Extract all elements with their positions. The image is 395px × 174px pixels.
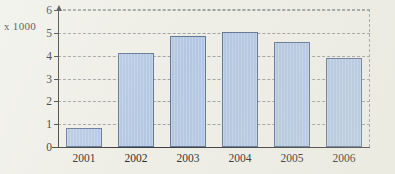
gridline <box>58 56 370 57</box>
bar-2005[interactable] <box>274 42 310 147</box>
y-axis-caption: x 1000 <box>4 20 36 32</box>
y-axis-line <box>58 10 59 147</box>
gridline <box>58 101 370 102</box>
x-axis-line <box>52 147 370 148</box>
gridline <box>58 79 370 80</box>
y-tick-label: 1 <box>46 118 52 130</box>
bar-2003[interactable] <box>170 36 206 147</box>
y-tick-label: 3 <box>46 73 52 85</box>
y-tick-label: 2 <box>46 95 52 107</box>
x-tick-label-2001: 2001 <box>73 152 96 164</box>
x-tick-label-2002: 2002 <box>125 152 148 164</box>
bar-2006[interactable] <box>326 58 362 147</box>
bar-2001[interactable] <box>66 128 102 147</box>
x-tick-label-2005: 2005 <box>281 152 304 164</box>
gridline <box>58 33 370 34</box>
y-axis-arrow-icon <box>56 5 62 11</box>
x-tick-label-2004: 2004 <box>229 152 252 164</box>
bar-2002[interactable] <box>118 53 154 147</box>
y-tick-label: 4 <box>46 50 52 62</box>
y-tick-label: 5 <box>46 27 52 39</box>
bar-chart: x 1000 0123456 200120022003200420052006 <box>0 0 395 174</box>
plot-area: 0123456 <box>58 10 370 147</box>
gridline <box>58 124 370 125</box>
x-tick-label-2006: 2006 <box>333 152 356 164</box>
bar-2004[interactable] <box>222 32 258 147</box>
gridline <box>58 10 370 11</box>
x-tick-label-2003: 2003 <box>177 152 200 164</box>
y-tick-label: 6 <box>46 4 52 16</box>
